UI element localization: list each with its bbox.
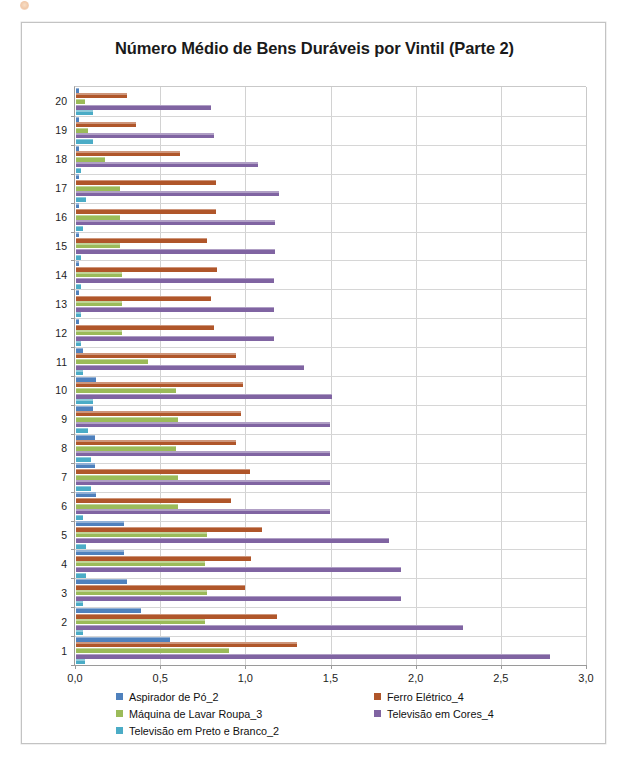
- bar: [76, 457, 91, 462]
- bar: [76, 336, 274, 341]
- bar: [76, 203, 79, 208]
- legend-label: Televisão em Preto e Branco_2: [129, 725, 279, 737]
- bar: [76, 191, 279, 196]
- legend-item[interactable]: Televisão em Cores_4: [374, 705, 494, 722]
- y-axis-tick: [71, 578, 75, 579]
- bar: [76, 440, 236, 445]
- bar: [76, 278, 274, 283]
- bar: [76, 498, 231, 503]
- bar: [76, 353, 236, 358]
- legend-item[interactable]: Máquina de Lavar Roupa_3: [116, 705, 279, 722]
- bar: [76, 654, 550, 659]
- bar: [76, 330, 122, 335]
- bar: [76, 550, 124, 555]
- x-axis-tick: [160, 665, 161, 669]
- y-axis-label: 6: [61, 500, 67, 512]
- y-axis-label: 5: [61, 529, 67, 541]
- bar: [76, 544, 86, 549]
- x-axis-label: 2,5: [493, 672, 508, 684]
- y-gridline: [75, 578, 586, 579]
- bar: [76, 209, 216, 214]
- bar: [76, 573, 86, 578]
- bar: [76, 492, 96, 497]
- legend-item[interactable]: Televisão em Preto e Branco_2: [116, 722, 279, 739]
- bar: [76, 128, 88, 133]
- bar: [76, 608, 141, 613]
- y-gridline: [75, 289, 586, 290]
- y-gridline: [75, 492, 586, 493]
- x-axis-label: 2,0: [408, 672, 423, 684]
- bar: [76, 469, 250, 474]
- bar: [76, 417, 178, 422]
- bar: [76, 509, 330, 514]
- plot-area: 0,00,51,01,52,02,53,01234567891011121314…: [74, 86, 586, 666]
- bar: [76, 261, 79, 266]
- x-axis-tick: [331, 665, 332, 669]
- bar: [76, 422, 330, 427]
- x-axis-label: 1,5: [323, 672, 338, 684]
- bar: [76, 504, 178, 509]
- bar: [76, 307, 274, 312]
- bar: [76, 151, 180, 156]
- y-axis-tick: [71, 232, 75, 233]
- bar: [76, 99, 85, 104]
- bar: [76, 319, 79, 324]
- y-gridline: [75, 549, 586, 550]
- bar: [76, 619, 205, 624]
- bar: [76, 168, 81, 173]
- bar: [76, 232, 79, 237]
- bar: [76, 296, 211, 301]
- bar: [76, 556, 251, 561]
- chart-title: Número Médio de Bens Duráveis por Vintil…: [22, 39, 607, 58]
- bar: [76, 451, 330, 456]
- bar: [76, 220, 275, 225]
- bar: [76, 463, 95, 468]
- y-gridline: [75, 318, 586, 319]
- bar: [76, 197, 86, 202]
- legend-swatch-icon: [374, 693, 381, 700]
- bar: [76, 406, 93, 411]
- y-gridline: [75, 260, 586, 261]
- bar: [76, 93, 127, 98]
- y-axis-label: 18: [55, 153, 67, 165]
- bar: [76, 243, 120, 248]
- bar: [76, 585, 245, 590]
- bar: [76, 596, 401, 601]
- y-axis-tick: [71, 549, 75, 550]
- legend-label: Televisão em Cores_4: [387, 708, 494, 720]
- y-axis-label: 2: [61, 616, 67, 628]
- legend-label: Aspirador de Pó_2: [129, 691, 218, 703]
- y-axis-label: 13: [55, 298, 67, 310]
- y-gridline: [75, 116, 586, 117]
- legend-swatch-icon: [374, 710, 381, 717]
- legend-column-left: Aspirador de Pó_2Máquina de Lavar Roupa_…: [116, 688, 279, 739]
- bar: [76, 301, 122, 306]
- y-axis-tick: [71, 289, 75, 290]
- bar: [76, 249, 275, 254]
- bar: [76, 117, 79, 122]
- bar: [76, 146, 79, 151]
- bar: [76, 325, 214, 330]
- bar: [76, 601, 83, 606]
- y-axis-tick: [71, 434, 75, 435]
- bar: [76, 527, 262, 532]
- bar: [76, 180, 216, 185]
- bar: [76, 521, 124, 526]
- y-gridline: [75, 145, 586, 146]
- bar: [76, 411, 241, 416]
- legend-item[interactable]: Ferro Elétrico_4: [374, 688, 494, 705]
- bar: [76, 267, 217, 272]
- y-axis-label: 3: [61, 587, 67, 599]
- y-axis-label: 7: [61, 471, 67, 483]
- bar: [76, 630, 83, 635]
- y-gridline: [75, 174, 586, 175]
- bar: [76, 370, 83, 375]
- bar: [76, 157, 105, 162]
- y-axis-label: 12: [55, 327, 67, 339]
- x-axis-label: 3,0: [578, 672, 593, 684]
- bar: [76, 428, 88, 433]
- bar: [76, 290, 79, 295]
- legend-item[interactable]: Aspirador de Pó_2: [116, 688, 279, 705]
- bar: [76, 435, 95, 440]
- y-axis-tick: [71, 405, 75, 406]
